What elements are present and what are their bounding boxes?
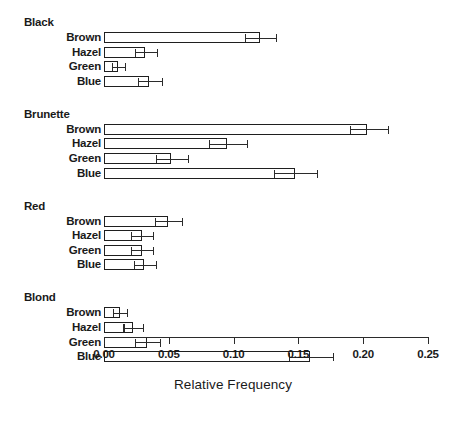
x-axis-tick-label-2: 0.10: [212, 348, 256, 360]
error-cap-high: [156, 261, 157, 269]
error-cap-high: [162, 78, 163, 86]
error-bar-blond-hazel: [123, 328, 142, 329]
category-label-red-blue: Blue: [0, 258, 101, 270]
category-label-blond-hazel: Hazel: [0, 321, 101, 333]
bar-black-brown: [104, 32, 260, 43]
error-cap-low: [155, 218, 156, 226]
error-bar-red-brown: [155, 221, 182, 222]
error-cap-high: [153, 247, 154, 255]
x-axis-tick-3: [298, 337, 299, 344]
error-bar-brunette-hazel: [209, 144, 247, 145]
x-axis-tick-5: [428, 337, 429, 344]
error-cap-low: [245, 34, 246, 42]
error-cap-high: [125, 63, 126, 71]
error-bar-blond-brown: [113, 313, 127, 314]
x-axis-tick-4: [363, 337, 364, 344]
x-axis-tick-label-3: 0.15: [276, 348, 320, 360]
error-bar-black-brown: [245, 38, 276, 39]
error-cap-low: [274, 170, 275, 178]
category-label-blond-green: Green: [0, 336, 101, 348]
error-cap-low: [113, 309, 114, 317]
category-label-black-blue: Blue: [0, 75, 101, 87]
group-label-brunette: Brunette: [24, 108, 70, 120]
error-cap-low: [138, 78, 139, 86]
error-cap-low: [134, 261, 135, 269]
error-bar-black-hazel: [135, 52, 157, 53]
x-axis-label: Relative Frequency: [0, 377, 466, 392]
error-cap-high: [143, 324, 144, 332]
error-cap-high: [160, 339, 161, 347]
category-label-brunette-hazel: Hazel: [0, 137, 101, 149]
relative-frequency-bar-chart: BlackBrownHazelGreenBlueBrunetteBrownHaz…: [0, 0, 466, 426]
x-axis-tick-label-4: 0.20: [341, 348, 385, 360]
x-axis-tick-0: [104, 337, 105, 344]
category-label-red-hazel: Hazel: [0, 229, 101, 241]
bar-brunette-blue: [104, 168, 295, 179]
error-cap-high: [247, 140, 248, 148]
category-label-blond-brown: Brown: [0, 306, 101, 318]
error-cap-low: [135, 49, 136, 57]
bar-brunette-brown: [104, 124, 367, 135]
error-cap-low: [135, 339, 136, 347]
category-label-brunette-blue: Blue: [0, 167, 101, 179]
x-axis-tick-1: [169, 337, 170, 344]
group-label-black: Black: [24, 16, 54, 28]
x-axis-tick-2: [234, 337, 235, 344]
error-bar-blond-green: [135, 342, 160, 343]
category-label-red-brown: Brown: [0, 215, 101, 227]
error-cap-high: [388, 126, 389, 134]
error-cap-low: [131, 247, 132, 255]
group-label-blond: Blond: [24, 291, 56, 303]
error-cap-high: [333, 353, 334, 361]
category-label-black-brown: Brown: [0, 31, 101, 43]
group-label-red: Red: [24, 200, 45, 212]
category-label-red-green: Green: [0, 244, 101, 256]
x-axis-tick-label-1: 0.05: [147, 348, 191, 360]
error-cap-low: [131, 232, 132, 240]
error-cap-low: [209, 140, 210, 148]
error-bar-red-blue: [134, 265, 156, 266]
error-bar-black-blue: [138, 81, 163, 82]
error-bar-brunette-blue: [274, 173, 317, 174]
category-label-brunette-green: Green: [0, 152, 101, 164]
error-bar-red-green: [131, 250, 153, 251]
error-cap-high: [182, 218, 183, 226]
error-cap-low: [156, 155, 157, 163]
x-axis-tick-label-0: 0.00: [82, 348, 126, 360]
error-cap-high: [157, 49, 158, 57]
error-cap-high: [153, 232, 154, 240]
x-axis-tick-label-5: 0.25: [406, 348, 450, 360]
error-cap-low: [112, 63, 113, 71]
error-cap-low: [350, 126, 351, 134]
error-cap-high: [276, 34, 277, 42]
error-bar-black-green: [112, 67, 125, 68]
category-label-black-green: Green: [0, 60, 101, 72]
error-bar-red-hazel: [131, 236, 153, 237]
x-axis-line: [104, 337, 429, 338]
error-cap-high: [188, 155, 189, 163]
error-cap-low: [123, 324, 124, 332]
error-bar-brunette-brown: [350, 129, 388, 130]
error-cap-high: [127, 309, 128, 317]
error-bar-brunette-green: [156, 159, 188, 160]
error-cap-high: [317, 170, 318, 178]
category-label-brunette-brown: Brown: [0, 123, 101, 135]
category-label-black-hazel: Hazel: [0, 46, 101, 58]
